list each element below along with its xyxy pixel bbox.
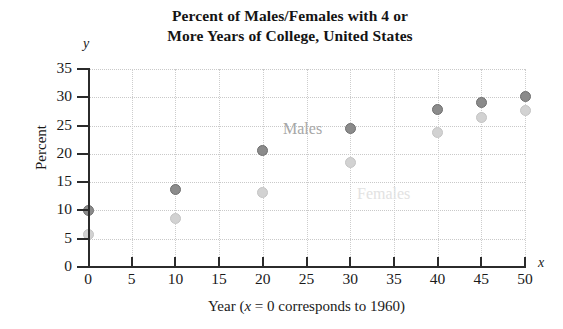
y-axis-tick-label: 15 [42,172,72,190]
y-axis-letter: y [83,36,89,52]
x-axis-tick-label: 25 [290,270,324,288]
y-axis-tick-label: 0 [42,257,72,275]
x-axis-tick [437,257,439,268]
x-axis-letter: x [538,255,544,271]
chart-title-line-1: Percent of Males/Females with 4 or [110,6,470,26]
y-axis-tick [77,181,89,183]
x-axis-title-suffix: = 0 corresponds to 1960) [251,298,405,314]
series-annotation-females: Females [357,185,410,203]
gridline-vertical [219,69,220,267]
y-axis-tick-label: 25 [42,116,72,134]
x-axis-tick-label: 10 [158,270,192,288]
x-axis-tick [349,257,351,268]
data-point-females [257,187,268,198]
x-axis-tick-label: 20 [246,270,280,288]
x-axis-tick-label: 50 [508,270,542,288]
x-axis-tick-label: 30 [333,270,367,288]
plot-area [88,69,525,267]
gridline-vertical [175,69,176,267]
x-axis-tick [306,257,308,268]
gridline-vertical [307,69,308,267]
scatter-chart-figure: Percent of Males/Females with 4 or More … [0,0,563,329]
data-point-males [345,123,356,134]
data-point-females [432,127,443,138]
gridline-vertical [132,69,133,267]
gridline-vertical [263,69,264,267]
gridline-vertical [438,69,439,267]
y-axis-tick-label: 35 [42,59,72,77]
x-axis-tick-label: 15 [202,270,236,288]
series-annotation-males: Males [283,120,322,138]
data-point-males [170,184,181,195]
y-axis-tick [77,96,89,98]
x-axis-tick [480,257,482,268]
x-axis-title-prefix: Year ( [208,298,244,314]
x-axis-tick [524,257,526,268]
y-axis-tick [77,125,89,127]
x-axis-tick-label: 0 [71,270,105,288]
x-axis-tick [262,257,264,268]
y-axis-tick [77,68,89,70]
y-axis-tick [77,209,89,211]
x-axis-tick-label: 5 [115,270,149,288]
x-axis-title: Year (x = 0 corresponds to 1960) [88,298,525,315]
x-axis-tick [218,257,220,268]
x-axis-tick-label: 35 [377,270,411,288]
data-point-females [345,157,356,168]
y-axis-tick [77,266,89,268]
data-point-females [170,213,181,224]
x-axis-tick [174,257,176,268]
data-point-males [476,97,487,108]
y-axis-tick-label: 10 [42,200,72,218]
chart-title-line-2: More Years of College, United States [110,26,470,46]
y-axis-tick-label: 20 [42,144,72,162]
data-point-males [520,91,531,102]
data-point-females [520,105,531,116]
x-axis-tick [393,257,395,268]
x-axis-tick-label: 40 [421,270,455,288]
y-axis-tick-label: 5 [42,229,72,247]
x-axis-tick-label: 45 [464,270,498,288]
chart-title: Percent of Males/Females with 4 or More … [110,6,470,46]
y-axis-tick-label: 30 [42,87,72,105]
data-point-males [432,104,443,115]
gridline-vertical [394,69,395,267]
x-axis-tick [131,257,133,268]
y-axis-tick [77,153,89,155]
y-axis-tick [77,238,89,240]
data-point-females [476,112,487,123]
